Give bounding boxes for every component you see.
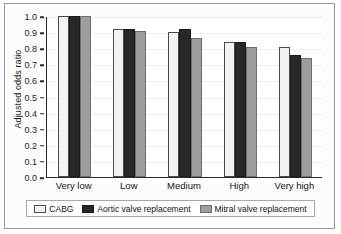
y-tick-label: 0.4 — [24, 109, 37, 119]
y-tick-mark — [40, 16, 44, 18]
bar — [279, 47, 290, 177]
bar — [113, 29, 124, 177]
legend-swatch-icon — [82, 205, 94, 213]
y-tick-label: 0.6 — [24, 76, 37, 86]
y-tick-label: 1.0 — [24, 12, 37, 22]
x-tick-label: Medium — [167, 180, 201, 191]
bar — [124, 29, 135, 177]
legend-label: Aortic valve replacement — [97, 204, 190, 214]
y-tick-label: 0.8 — [24, 44, 37, 54]
bar-group — [168, 17, 201, 177]
y-tick-mark — [40, 129, 44, 131]
y-tick-mark — [40, 97, 44, 99]
y-tick-label: 0.9 — [24, 28, 37, 38]
y-tick-mark — [40, 113, 44, 115]
bar-group — [58, 17, 91, 177]
y-tick-label: 0.2 — [24, 141, 37, 151]
bar-group — [224, 17, 257, 177]
bar — [58, 16, 69, 177]
y-tick-label: 0.3 — [24, 125, 37, 135]
y-tick-mark — [40, 161, 44, 163]
bar-series-container — [47, 17, 322, 177]
bar — [224, 42, 235, 177]
bar-group — [113, 17, 146, 177]
bar — [179, 29, 190, 177]
legend-label: CABG — [49, 204, 73, 214]
y-axis-ticks: 0.00.10.20.30.40.50.60.70.80.91.0 — [0, 17, 44, 178]
x-tick-label: Very high — [275, 180, 315, 191]
legend-swatch-icon — [34, 205, 46, 213]
legend-item[interactable]: Mitral valve replacement — [200, 204, 307, 214]
y-tick-label: 0.5 — [24, 93, 37, 103]
chart-legend: CABGAortic valve replacementMitral valve… — [26, 200, 315, 217]
y-tick-mark — [40, 81, 44, 83]
legend-item[interactable]: CABG — [34, 204, 73, 214]
bar — [191, 38, 202, 177]
bar — [135, 31, 146, 178]
y-tick-mark — [40, 65, 44, 67]
legend-swatch-icon — [200, 205, 212, 213]
y-tick-mark — [40, 48, 44, 50]
x-axis-ticks: Very lowLowMediumHighVery high — [46, 180, 322, 196]
bar — [69, 16, 80, 177]
x-tick-label: Low — [120, 180, 137, 191]
y-tick-label: 0.1 — [24, 157, 37, 167]
y-tick-mark — [40, 145, 44, 147]
bar — [235, 42, 246, 177]
y-tick-mark — [40, 177, 44, 179]
bar — [301, 58, 312, 177]
y-tick-label: 0.7 — [24, 60, 37, 70]
bar-group — [279, 17, 312, 177]
x-tick-label: Very low — [56, 180, 92, 191]
legend-label: Mitral valve replacement — [215, 204, 307, 214]
bar — [290, 55, 301, 177]
legend-item[interactable]: Aortic valve replacement — [82, 204, 190, 214]
x-tick-label: High — [229, 180, 249, 191]
y-tick-label: 0.0 — [24, 173, 37, 183]
chart-figure: Adjusted odds ratio 0.00.10.20.30.40.50.… — [0, 0, 341, 234]
y-tick-mark — [40, 32, 44, 34]
bar — [246, 47, 257, 177]
bar — [168, 32, 179, 177]
bar — [80, 16, 91, 177]
plot-area — [46, 17, 322, 178]
